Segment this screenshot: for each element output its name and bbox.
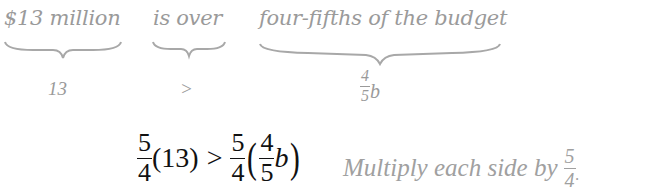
phrase-is-over: is over: [153, 6, 222, 30]
underbrace-3: [258, 40, 502, 68]
instruction-note: Multiply each side by 5 4 .: [343, 146, 580, 190]
phrase-13-million: $13 million: [4, 6, 120, 30]
inner-fraction: 4 5: [259, 130, 274, 186]
left-coefficient: 5 4: [137, 130, 152, 186]
underbrace-1: [3, 38, 123, 62]
note-fraction: 5 4: [564, 146, 576, 190]
phrase-four-fifths-budget: four-fifths of the budget: [259, 6, 507, 30]
value-13: 13: [48, 78, 67, 100]
underbrace-2: [151, 38, 227, 60]
value-greater-than: >: [180, 78, 193, 100]
value-four-fifths-b: 4 5 b: [360, 68, 380, 104]
right-coefficient: 5 4: [230, 130, 245, 186]
equation: 5 4 (13) > 5 4 ( 4 5 b ): [137, 130, 302, 186]
